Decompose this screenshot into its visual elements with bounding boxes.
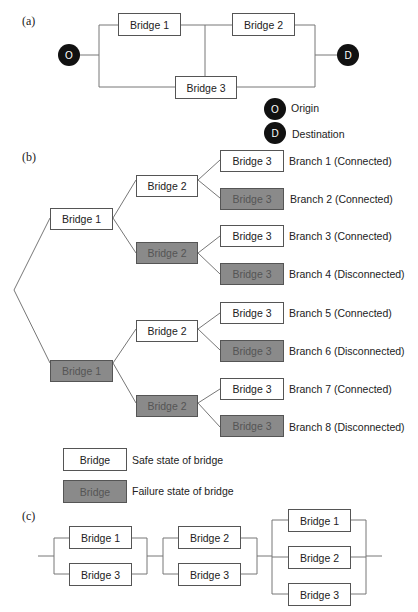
branch-8-label: Branch 8 (Disconnected) [289,421,405,433]
panel-label-a: (a) [22,14,35,29]
tree-l2-node-2: Bridge 2 [136,242,198,264]
legend-safe-text: Safe state of bridge [132,454,223,466]
legend-origin-label: Origin [291,102,319,114]
cut-3-bridge-3: Bridge 3 [288,583,351,606]
branch-3-label: Branch 3 (Connected) [289,230,392,242]
tree-l1-bridge-1-failure: Bridge 1 [50,360,113,382]
branch-2-label: Branch 2 (Connected) [290,193,393,205]
cut-2-bridge-3: Bridge 3 [178,563,241,586]
legend-origin-node: O [264,98,286,120]
tree-l3-node-1: Bridge 3 [220,150,284,172]
branch-6-label: Branch 6 (Disconnected) [289,345,405,357]
panel-label-b: (b) [22,150,36,165]
tree-l1-bridge-1-safe: Bridge 1 [50,208,113,230]
destination-node: D [337,44,359,66]
panel-label-c: (c) [22,509,35,524]
tree-l3-node-6: Bridge 3 [220,340,284,362]
cut-1-bridge-3: Bridge 3 [69,563,132,586]
network-bridge-2: Bridge 2 [232,13,295,36]
cut-3-bridge-1: Bridge 1 [288,509,351,532]
cut-1-bridge-1: Bridge 1 [69,526,132,549]
network-bridge-3: Bridge 3 [175,76,237,99]
tree-l3-node-3: Bridge 3 [220,225,284,247]
origin-node: O [58,44,80,66]
branch-7-label: Branch 7 (Connected) [289,383,392,395]
tree-l3-node-5: Bridge 3 [220,302,284,324]
tree-l3-node-7: Bridge 3 [220,378,284,400]
legend-destination-label: Destination [292,128,345,140]
network-bridge-1: Bridge 1 [118,13,181,36]
legend-failure-text: Failure state of bridge [132,485,234,497]
tree-l3-node-4: Bridge 3 [220,263,284,285]
cut-3-bridge-2: Bridge 2 [288,546,351,569]
tree-l3-node-8: Bridge 3 [220,415,284,437]
branch-4-label: Branch 4 (Disconnected) [289,268,405,280]
tree-l2-node-3: Bridge 2 [136,320,198,342]
tree-l2-node-1: Bridge 2 [136,175,198,197]
branch-5-label: Branch 5 (Connected) [289,307,392,319]
tree-l2-node-4: Bridge 2 [136,395,198,417]
legend-failure-box: Bridge [63,480,127,503]
legend-destination-node: D [264,122,286,144]
cut-2-bridge-2: Bridge 2 [178,526,241,549]
legend-safe-box: Bridge [63,448,127,471]
tree-l3-node-2: Bridge 3 [220,188,284,210]
branch-1-label: Branch 1 (Connected) [289,155,392,167]
